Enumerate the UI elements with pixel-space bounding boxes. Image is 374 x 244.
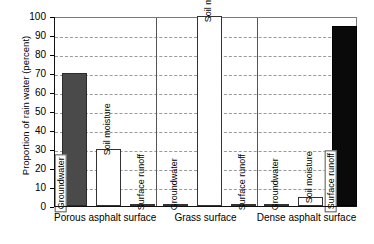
plot-inner: GroundwaterSoil moistureSurface runoffGr… (55, 18, 356, 206)
bar-label: Groundwater (55, 154, 67, 212)
y-axis-tick-label: 40 (35, 126, 46, 136)
x-axis-group-label: Dense asphalt surface (256, 212, 357, 223)
bar-label: Surface runoff (135, 152, 145, 212)
y-axis-tick-label: 70 (35, 69, 46, 79)
bar-label: Groundwater (270, 156, 280, 212)
y-axis-tick-label: 10 (35, 183, 46, 193)
bar (96, 149, 121, 206)
bar-label: Surface runoff (324, 150, 336, 212)
y-axis-tick-label: 80 (35, 50, 46, 60)
y-axis-tick-label: 20 (35, 164, 46, 174)
y-axis-line (54, 17, 55, 207)
plot-area: GroundwaterSoil moistureSurface runoffGr… (54, 17, 357, 207)
y-axis-title: Proportion of rain water (percent) (20, 6, 31, 206)
x-axis-group-label: Grass surface (155, 212, 256, 223)
y-axis-tick-label: 30 (35, 145, 46, 155)
y-axis-tick-label: 60 (35, 88, 46, 98)
bar-label: Groundwater (169, 156, 179, 212)
y-axis-tick-label: 100 (29, 12, 46, 22)
y-axis-tick-mark (50, 207, 54, 208)
bar-chart: Proportion of rain water (percent) 01020… (0, 0, 374, 244)
y-axis-tick-label: 0 (40, 202, 46, 212)
group-separator (156, 18, 157, 206)
x-axis-group-label: Porous asphalt surface (54, 212, 155, 223)
x-axis-line (54, 206, 357, 207)
bar-label: Soil moisture (102, 101, 112, 157)
bar (197, 16, 222, 206)
bar-label: Surface runoff (236, 152, 246, 212)
y-axis-tick-label: 90 (35, 31, 46, 41)
bar-label: Soil moisture (304, 149, 314, 205)
group-separator (257, 18, 258, 206)
bar-label: Soil moisture (203, 0, 213, 24)
y-axis-tick-label: 50 (35, 107, 46, 117)
